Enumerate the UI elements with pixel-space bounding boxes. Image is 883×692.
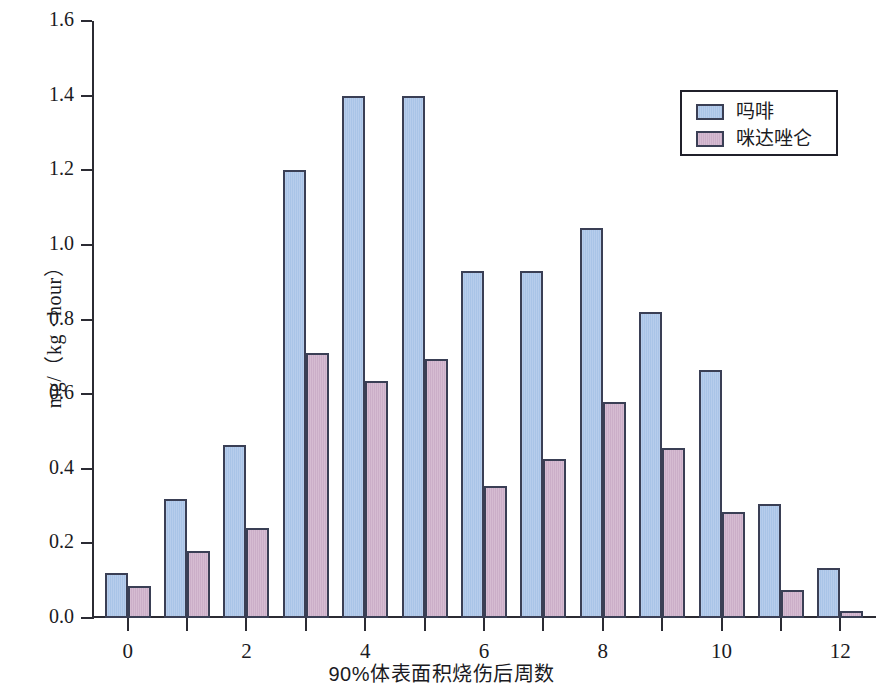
- y-tick-1.4: 1.4: [81, 95, 92, 97]
- bar-series-0-x-2: [223, 445, 246, 619]
- bar-series-0-x-4: [342, 96, 365, 618]
- x-tick-10: 10: [721, 618, 723, 631]
- y-tick-label: 0.8: [49, 308, 74, 328]
- bar-series-0-x-6: [461, 271, 484, 618]
- chart-container: mg/（kg · hour） 0.00.20.40.60.81.01.21.41…: [0, 0, 883, 692]
- bar-series-0-x-12: [817, 568, 840, 618]
- y-tick-label: 0.0: [49, 606, 74, 626]
- bar-series-1-x-9: [662, 448, 685, 618]
- bar-series-0-x-1: [164, 499, 187, 618]
- bar-series-1-x-4: [365, 381, 388, 618]
- x-tick-9: [661, 618, 663, 631]
- legend-label-series-1: 咪达唑仑: [736, 129, 812, 148]
- bar-series-1-x-11: [781, 590, 804, 618]
- x-tick-2: 2: [245, 618, 247, 631]
- y-tick-label: 1.4: [49, 84, 74, 104]
- y-tick-1.0: 1.0: [81, 244, 92, 246]
- legend-swatch-icon-series-1: [696, 131, 724, 147]
- bar-series-1-x-5: [425, 359, 448, 618]
- y-tick-1.6: 1.6: [81, 20, 92, 22]
- y-tick-0.2: 0.2: [81, 542, 92, 544]
- bar-series-0-x-5: [402, 96, 425, 618]
- y-tick-label: 1.0: [49, 233, 74, 253]
- bar-series-1-x-8: [603, 402, 626, 618]
- x-axis-label: 90%体表面积烧伤后周数: [0, 658, 883, 687]
- y-axis-line: [92, 21, 94, 619]
- x-tick-4: 4: [364, 618, 366, 631]
- x-tick-5: [424, 618, 426, 631]
- x-tick-7: [542, 618, 544, 631]
- bar-series-1-x-7: [543, 459, 566, 618]
- y-tick-1.2: 1.2: [81, 169, 92, 171]
- y-tick-0.6: 0.6: [81, 393, 92, 395]
- bar-series-0-x-11: [758, 504, 781, 618]
- y-tick-0.8: 0.8: [81, 319, 92, 321]
- y-tick-label: 0.6: [49, 382, 74, 402]
- bar-series-1-x-2: [246, 528, 269, 618]
- bar-series-0-x-7: [520, 271, 543, 618]
- y-tick-label: 1.2: [49, 158, 74, 178]
- x-tick-8: 8: [602, 618, 604, 631]
- bar-series-1-x-3: [306, 353, 329, 618]
- x-tick-3: [305, 618, 307, 631]
- x-tick-6: 6: [483, 618, 485, 631]
- bar-series-0-x-10: [699, 370, 722, 618]
- bar-series-0-x-3: [283, 170, 306, 618]
- legend-item-series-0: 吗啡: [696, 98, 836, 125]
- x-tick-0: 0: [127, 618, 129, 631]
- bar-series-0-x-0: [105, 573, 128, 618]
- legend-swatch-icon-series-0: [696, 104, 724, 120]
- bar-series-1-x-12: [840, 611, 863, 618]
- bar-series-1-x-6: [484, 486, 507, 618]
- x-tick-12: 12: [839, 618, 841, 631]
- y-tick-0.4: 0.4: [81, 468, 92, 470]
- bar-series-1-x-10: [722, 512, 745, 618]
- y-tick-0.0: 0.0: [81, 617, 92, 619]
- bar-series-0-x-8: [580, 228, 603, 618]
- legend-label-series-0: 吗啡: [736, 102, 774, 121]
- y-tick-label: 0.2: [49, 531, 74, 551]
- legend: 吗啡 咪达唑仑: [680, 90, 838, 156]
- y-tick-label: 0.4: [49, 457, 74, 477]
- bar-series-1-x-1: [187, 551, 210, 618]
- y-tick-label: 1.6: [49, 9, 74, 29]
- x-tick-11: [780, 618, 782, 631]
- bar-series-1-x-0: [128, 586, 151, 618]
- x-tick-1: [186, 618, 188, 631]
- legend-item-series-1: 咪达唑仑: [696, 125, 836, 152]
- bar-series-0-x-9: [639, 312, 662, 618]
